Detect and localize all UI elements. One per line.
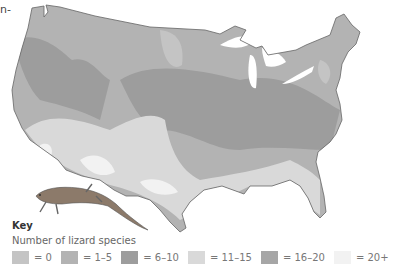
legend-label: = 20+ [356, 252, 389, 263]
legend-label: = 1–5 [83, 252, 112, 263]
legend-label: = 11–15 [210, 252, 252, 263]
legend-swatch [121, 251, 138, 264]
legend-item-1-5: = 1–5 [61, 251, 112, 264]
legend-label: = 6–10 [143, 252, 179, 263]
legend-swatch [61, 251, 78, 264]
key-title: Key [12, 220, 33, 231]
key-subtitle: Number of lizard species [12, 235, 136, 246]
legend-swatch [188, 251, 205, 264]
legend-item-20-plus: = 20+ [334, 251, 389, 264]
legend-swatch [261, 251, 278, 264]
legend-item-11-15: = 11–15 [188, 251, 252, 264]
legend-label: = 16–20 [283, 252, 325, 263]
us-lizard-species-map [0, 0, 372, 235]
legend-item-0: = 0 [12, 251, 52, 264]
legend: = 0 = 1–5 = 6–10 = 11–15 = 16–20 = 20+ [12, 251, 393, 264]
legend-item-16-20: = 16–20 [261, 251, 325, 264]
legend-swatch [334, 251, 351, 264]
legend-label: = 0 [34, 252, 52, 263]
legend-swatch [12, 251, 29, 264]
legend-item-6-10: = 6–10 [121, 251, 179, 264]
